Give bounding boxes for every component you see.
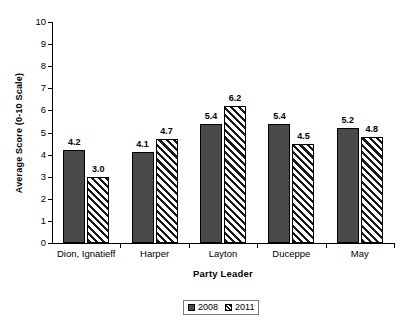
y-axis-tick-mark [48, 221, 52, 222]
bar [361, 137, 383, 243]
y-axis-tick-mark [48, 110, 52, 111]
y-axis-tick-mark [48, 22, 52, 23]
bar [292, 144, 314, 243]
legend-entry: 2011 [225, 303, 254, 312]
x-axis-category-label: Layton [189, 248, 257, 259]
bar [156, 139, 178, 243]
y-axis-tick-label: 9 [30, 39, 46, 48]
y-axis-line [52, 22, 53, 244]
plot-area: 4.23.04.14.75.46.25.44.55.24.8 [52, 22, 394, 243]
y-axis-tick-label: 8 [30, 61, 46, 70]
bar-value-label: 4.2 [57, 137, 91, 147]
y-axis-tick-mark [48, 199, 52, 200]
y-axis-tick-mark [48, 177, 52, 178]
y-axis-tick-label: 10 [30, 17, 46, 26]
legend-swatch-icon [188, 304, 195, 311]
x-axis-category-label: Duceppe [257, 248, 325, 259]
x-axis-category-label: Dion, Ignatieff [52, 248, 120, 259]
y-axis-tick-label: 4 [30, 150, 46, 159]
y-axis-tick-mark [48, 243, 52, 244]
bar-chart: Average Score (0-10 Scale) 109876543210 … [0, 0, 405, 325]
y-axis-tick-label: 7 [30, 83, 46, 92]
y-axis-tick-mark [48, 88, 52, 89]
legend-label: 2008 [198, 303, 218, 312]
x-axis-category-label: Harper [120, 248, 188, 259]
bar-value-label: 5.4 [194, 111, 228, 121]
x-axis-line [52, 243, 394, 244]
bar [200, 124, 222, 243]
x-axis-tick-mark [394, 243, 395, 248]
y-axis-tick-label: 6 [30, 105, 46, 114]
bar-value-label: 5.4 [262, 111, 296, 121]
y-axis-tick-label: 2 [30, 194, 46, 203]
y-axis-tick-label: 0 [30, 238, 46, 247]
bar-value-label: 4.5 [286, 131, 320, 141]
bar [268, 124, 290, 243]
legend-swatch-icon [225, 304, 232, 311]
chart-legend: 20082011 [183, 300, 259, 315]
bar [87, 177, 109, 243]
bar-value-label: 4.8 [355, 124, 389, 134]
bar-value-label: 3.0 [81, 164, 115, 174]
y-axis-tick-mark [48, 155, 52, 156]
bar-value-label: 4.1 [126, 139, 160, 149]
y-axis-tick-label: 3 [30, 172, 46, 181]
y-axis-tick-labels: 109876543210 [28, 0, 46, 325]
bar [132, 152, 154, 243]
y-axis-tick-mark [48, 133, 52, 134]
y-axis-tick-label: 1 [30, 216, 46, 225]
bar-value-label: 4.7 [150, 126, 184, 136]
x-axis-category-label: May [326, 248, 394, 259]
y-axis-title: Average Score (0-10 Scale) [14, 48, 24, 218]
legend-label: 2011 [235, 303, 254, 312]
y-axis-tick-label: 5 [30, 128, 46, 137]
y-axis-tick-mark [48, 44, 52, 45]
bar-value-label: 6.2 [218, 93, 252, 103]
legend-entry: 2008 [188, 303, 218, 312]
y-axis-tick-mark [48, 66, 52, 67]
x-axis-title: Party Leader [52, 268, 394, 279]
bar [337, 128, 359, 243]
bar [224, 106, 246, 243]
